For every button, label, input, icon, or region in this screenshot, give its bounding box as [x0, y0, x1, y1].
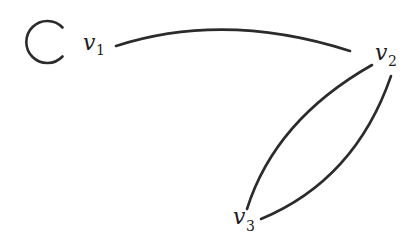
vertex-v3-subscript: 3: [246, 218, 255, 234]
edge-v1-v2: [116, 30, 350, 51]
vertex-v2: v 2: [375, 40, 397, 69]
vertex-v2-label: v: [375, 40, 388, 65]
vertex-v1-subscript: 1: [96, 42, 105, 58]
vertex-v3-label: v: [233, 204, 246, 229]
vertex-v3: v 3: [233, 204, 255, 234]
vertex-v2-subscript: 2: [388, 53, 397, 69]
vertex-v1: v 1: [83, 30, 105, 58]
vertex-v1-label: v: [83, 30, 96, 55]
graph-diagram: v 1 v 2 v 3: [0, 0, 415, 245]
edge-loop-v1: [26, 21, 62, 63]
edge-v2-v3-a: [247, 65, 372, 209]
